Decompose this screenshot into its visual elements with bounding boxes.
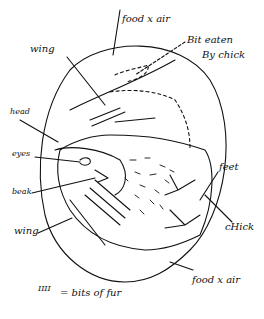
leader-wing-bottom — [38, 218, 72, 233]
feet — [165, 175, 200, 228]
wing-lines — [90, 108, 155, 126]
label-bit-eaten: Bit eaten — [187, 35, 233, 45]
leader-feet — [200, 172, 218, 200]
label-wing-top: wing — [30, 44, 55, 54]
leader-head — [20, 120, 58, 142]
label-by-chick: By chick — [202, 50, 245, 60]
legend-text: = bits of fur — [60, 288, 121, 298]
leader-wing-top — [67, 57, 105, 105]
label-head: head — [10, 108, 30, 116]
label-feet: feet — [219, 162, 239, 172]
bit-eaten-outline — [115, 65, 148, 82]
beak-shape — [95, 170, 108, 182]
label-eyes: eyes — [12, 150, 30, 158]
eye-shape — [80, 158, 90, 165]
label-food-air-bottom: food x air — [192, 275, 240, 285]
legend-symbol: IIII — [38, 285, 51, 293]
fur-marks — [125, 158, 174, 214]
leader-bit-eaten — [135, 42, 185, 75]
label-beak: beak — [12, 188, 31, 196]
leader-food-air-top — [113, 10, 120, 55]
label-wing-bottom: wing — [14, 226, 39, 236]
label-chick: cHick — [225, 222, 254, 232]
leader-food-air-bottom — [170, 262, 193, 270]
wing-top — [70, 60, 175, 110]
leader-beak — [32, 178, 95, 193]
label-food-air-top: food x air — [122, 14, 170, 24]
chick-body — [58, 135, 212, 250]
